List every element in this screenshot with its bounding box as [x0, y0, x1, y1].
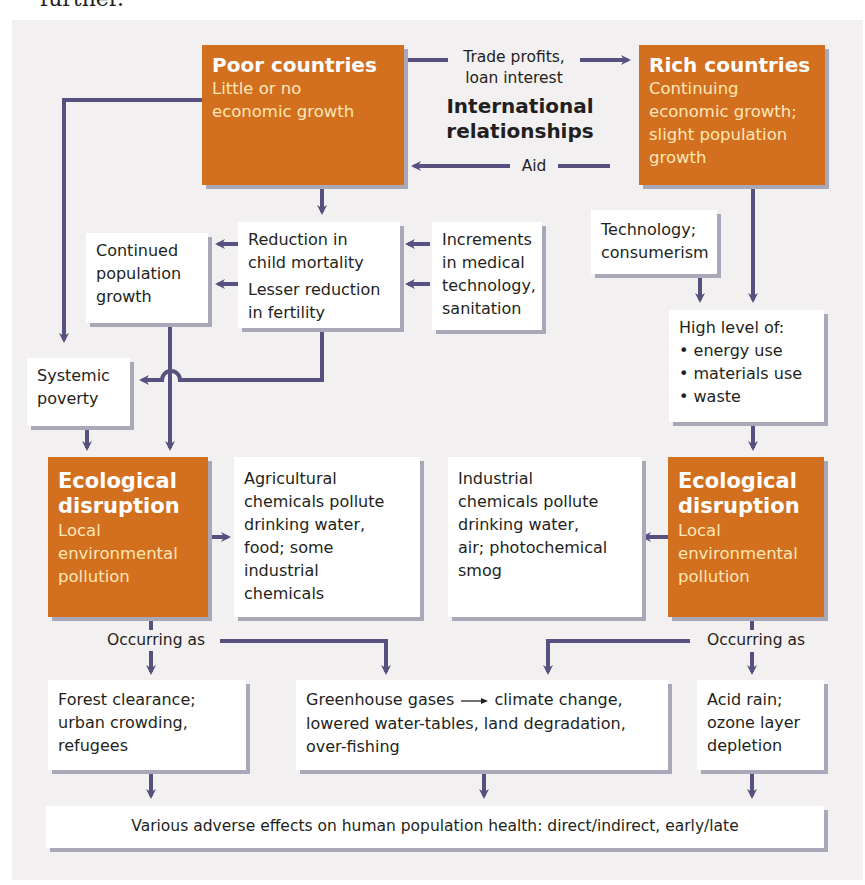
- center-title-line-2: relationships: [440, 119, 600, 144]
- high-level-bullet-3: • waste: [679, 385, 814, 408]
- node-rich-countries: Rich countries Continuing economic growt…: [639, 45, 825, 185]
- industrial-line-2: chemicals pollute: [458, 490, 632, 513]
- node-industrial-chemicals: Industrial chemicals pollute drinking wa…: [448, 457, 642, 617]
- edge-label-aid: Aid: [512, 156, 556, 177]
- node-greenhouse-gases: Greenhouse gases climate change, lowered…: [296, 680, 668, 770]
- eco-right-subtitle-2: environmental: [678, 542, 814, 565]
- edge-label-trade: Trade profits, loan interest: [448, 47, 580, 89]
- systemic-line-2: poverty: [37, 387, 120, 410]
- agri-line-4: food; some: [244, 536, 410, 559]
- node-continued-population-growth: Continued population growth: [86, 233, 208, 323]
- eco-left-title-2: disruption: [58, 494, 198, 519]
- acid-line-2: ozone layer: [707, 711, 814, 734]
- node-reduction-and-fertility: Reduction in child mortality Lesser redu…: [238, 222, 400, 328]
- eco-left-subtitle-2: environmental: [58, 542, 198, 565]
- poor-countries-subtitle-1: Little or no: [212, 77, 394, 100]
- high-level-bullet-1: • energy use: [679, 339, 814, 362]
- industrial-line-5: smog: [458, 559, 632, 582]
- forest-line-1: Forest clearance;: [58, 688, 236, 711]
- node-ecological-disruption-left: Ecological disruption Local environmenta…: [48, 457, 208, 617]
- lesser-reduction-fertility: Lesser reduction in fertility: [248, 278, 390, 324]
- high-level-heading: High level of:: [679, 316, 814, 339]
- eco-right-subtitle-1: Local: [678, 519, 814, 542]
- continued-pop-line-3: growth: [96, 285, 198, 308]
- forest-line-3: refugees: [58, 734, 236, 757]
- node-agricultural-chemicals: Agricultural chemicals pollute drinking …: [234, 457, 420, 617]
- eco-right-title-2: disruption: [678, 494, 814, 519]
- rich-countries-subtitle-4: growth: [649, 146, 815, 169]
- edge-label-occurring-right: Occurring as: [694, 630, 818, 651]
- high-level-bullet-2: • materials use: [679, 362, 814, 385]
- continued-pop-line-1: Continued: [96, 239, 198, 262]
- industrial-line-1: Industrial: [458, 467, 632, 490]
- poor-countries-subtitle-2: economic growth: [212, 100, 394, 123]
- technology-line-1: Technology;: [601, 218, 707, 241]
- poor-countries-title: Poor countries: [212, 53, 394, 77]
- greenhouse-effect: climate change,: [494, 690, 622, 709]
- arrow-right-icon: [459, 689, 489, 712]
- greenhouse-line-1: Greenhouse gases climate change,: [306, 688, 658, 712]
- node-acid-rain: Acid rain; ozone layer depletion: [697, 680, 824, 770]
- lesser-line-1: Lesser reduction: [248, 278, 390, 301]
- technology-line-2: consumerism: [601, 241, 707, 264]
- forest-line-2: urban crowding,: [58, 711, 236, 734]
- node-systemic-poverty: Systemic poverty: [27, 358, 130, 426]
- bullet-text: materials use: [694, 364, 803, 383]
- increments-line-4: sanitation: [442, 297, 532, 320]
- rich-countries-subtitle-1: Continuing: [649, 77, 815, 100]
- agri-line-3: drinking water,: [244, 513, 410, 536]
- agri-line-6: chemicals: [244, 582, 410, 605]
- rich-countries-subtitle-2: economic growth;: [649, 100, 815, 123]
- lesser-line-2: in fertility: [248, 301, 390, 324]
- rich-countries-subtitle-3: slight population: [649, 123, 815, 146]
- trade-label-line-1: Trade profits,: [448, 47, 580, 68]
- reduction-line-1: Reduction in: [248, 228, 390, 251]
- eco-left-title-1: Ecological: [58, 469, 198, 494]
- greenhouse-cause: Greenhouse gases: [306, 690, 454, 709]
- node-poor-countries: Poor countries Little or no economic gro…: [202, 45, 404, 185]
- increments-line-2: in medical: [442, 251, 532, 274]
- edge-label-occurring-left: Occurring as: [94, 630, 218, 651]
- greenhouse-line-3: over-fishing: [306, 735, 658, 758]
- eco-left-subtitle-3: pollution: [58, 565, 198, 588]
- eco-left-subtitle-1: Local: [58, 519, 198, 542]
- agri-line-2: chemicals pollute: [244, 490, 410, 513]
- node-technology-consumerism: Technology; consumerism: [591, 210, 717, 274]
- eco-right-title-1: Ecological: [678, 469, 814, 494]
- industrial-line-4: air; photochemical: [458, 536, 632, 559]
- agri-line-5: industrial: [244, 559, 410, 582]
- center-title: International relationships: [440, 94, 600, 144]
- node-ecological-disruption-right: Ecological disruption Local environmenta…: [668, 457, 824, 617]
- adverse-effects-text: Various adverse effects on human populat…: [131, 817, 738, 835]
- greenhouse-line-2: lowered water-tables, land degradation,: [306, 712, 658, 735]
- node-adverse-effects: Various adverse effects on human populat…: [46, 806, 824, 848]
- node-high-level-of: High level of: • energy use • materials …: [669, 310, 824, 422]
- increments-line-3: technology,: [442, 274, 532, 297]
- acid-line-3: depletion: [707, 734, 814, 757]
- reduction-child-mortality: Reduction in child mortality: [248, 228, 390, 274]
- center-title-line-1: International: [440, 94, 600, 119]
- eco-right-subtitle-3: pollution: [678, 565, 814, 588]
- bullet-text: energy use: [694, 341, 783, 360]
- agri-line-1: Agricultural: [244, 467, 410, 490]
- reduction-line-2: child mortality: [248, 251, 390, 274]
- increments-line-1: Increments: [442, 228, 532, 251]
- systemic-line-1: Systemic: [37, 364, 120, 387]
- node-increments-medical-technology: Increments in medical technology, sanita…: [432, 222, 542, 330]
- bullet-text: waste: [694, 387, 741, 406]
- trade-label-line-2: loan interest: [448, 68, 580, 89]
- node-forest-clearance: Forest clearance; urban crowding, refuge…: [48, 680, 246, 770]
- continued-pop-line-2: population: [96, 262, 198, 285]
- industrial-line-3: drinking water,: [458, 513, 632, 536]
- acid-line-1: Acid rain;: [707, 688, 814, 711]
- rich-countries-title: Rich countries: [649, 53, 815, 77]
